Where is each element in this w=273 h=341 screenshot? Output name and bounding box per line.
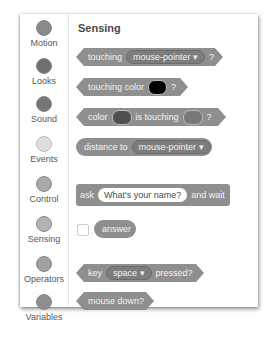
category-sound[interactable]: Sound	[20, 96, 68, 124]
category-operators[interactable]: Operators	[20, 256, 68, 284]
block-text: ?	[209, 52, 214, 62]
color-swatch-1[interactable]	[112, 110, 132, 125]
block-text: ?	[171, 82, 176, 92]
category-label: Sensing	[20, 234, 68, 244]
category-label: Sound	[20, 114, 68, 124]
mouse-down-block[interactable]: mouse down?	[76, 292, 154, 310]
color-swatch[interactable]	[148, 80, 167, 95]
block-text: color	[88, 112, 108, 122]
block-text: ask	[80, 190, 94, 200]
distance-to-block[interactable]: distance to mouse-pointer ▾	[76, 138, 212, 156]
category-label: Control	[20, 194, 68, 204]
control-icon	[36, 176, 52, 192]
blocks-palette: Motion Looks Sound Events Control Sensin…	[20, 14, 258, 307]
category-label: Motion	[20, 38, 68, 48]
category-variables[interactable]: Variables	[20, 294, 68, 322]
touching-target-dropdown[interactable]: mouse-pointer ▾	[126, 50, 205, 64]
category-motion[interactable]: Motion	[20, 20, 68, 48]
looks-icon	[36, 58, 52, 74]
answer-checkbox[interactable]	[77, 224, 89, 236]
category-events[interactable]: Events	[20, 136, 68, 164]
category-control[interactable]: Control	[20, 176, 68, 204]
distance-target-dropdown[interactable]: mouse-pointer ▾	[132, 140, 211, 154]
color-swatch-2[interactable]	[183, 110, 203, 125]
touching-block[interactable]: touching mouse-pointer ▾ ?	[76, 48, 223, 66]
sensing-icon	[36, 216, 52, 232]
key-dropdown[interactable]: space ▾	[106, 266, 152, 280]
block-text: touching	[88, 52, 122, 62]
palette-title: Sensing	[78, 22, 121, 34]
block-text: answer	[102, 224, 131, 234]
block-text: and wait	[191, 190, 225, 200]
category-label: Variables	[20, 312, 68, 322]
touching-color-block[interactable]: touching color ?	[76, 78, 188, 96]
key-pressed-block[interactable]: key space ▾ pressed?	[76, 264, 204, 282]
ask-and-wait-block[interactable]: ask What's your name? and wait	[76, 184, 230, 206]
events-icon	[36, 136, 52, 152]
ask-question-input[interactable]: What's your name?	[98, 188, 187, 202]
category-sensing[interactable]: Sensing	[20, 216, 68, 244]
color-is-touching-block[interactable]: color is touching ?	[76, 108, 226, 126]
category-looks[interactable]: Looks	[20, 58, 68, 86]
block-text: pressed?	[156, 268, 193, 278]
block-text: is touching	[136, 112, 179, 122]
variables-icon	[36, 294, 52, 310]
category-label: Events	[20, 154, 68, 164]
block-text: distance to	[84, 142, 128, 152]
block-text: ?	[207, 112, 212, 122]
answer-block[interactable]: answer	[94, 220, 136, 238]
category-label: Looks	[20, 76, 68, 86]
block-text: touching color	[88, 82, 144, 92]
block-text: key	[88, 268, 102, 278]
category-menu: Motion Looks Sound Events Control Sensin…	[20, 14, 69, 307]
operators-icon	[36, 256, 52, 272]
sound-icon	[36, 96, 52, 112]
block-text: mouse down?	[88, 296, 144, 306]
motion-icon	[36, 20, 52, 36]
category-label: Operators	[20, 274, 68, 284]
